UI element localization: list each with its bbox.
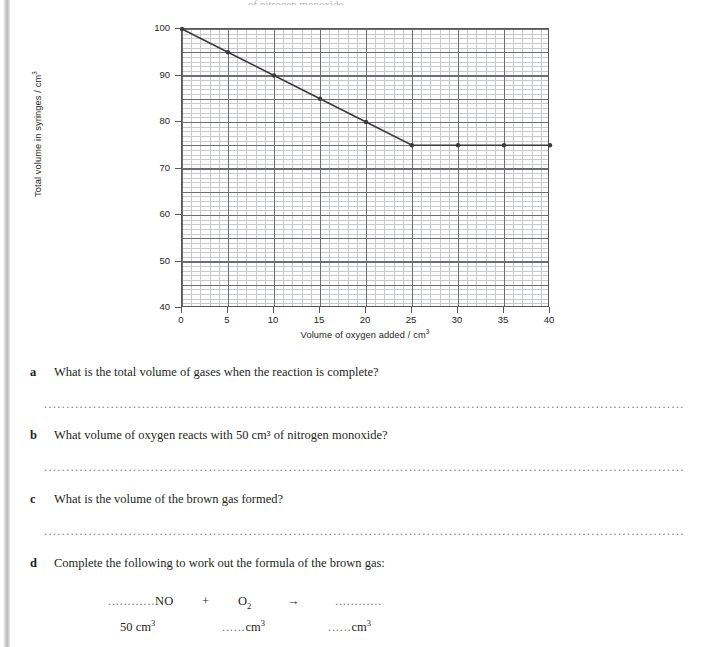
x-axis-tick-mark — [457, 307, 458, 313]
x-axis-tick-mark — [365, 307, 366, 313]
x-axis-tick-label: 10 — [258, 315, 288, 325]
graph-plot-area — [181, 28, 549, 307]
x-axis-tick-mark — [549, 307, 550, 313]
y-axis-tick-mark — [175, 261, 181, 262]
question-text: Complete the following to work out the f… — [54, 556, 385, 571]
y-axis-tick-label: 40 — [140, 302, 170, 312]
y-axis-label: Total volume in syringes / cm3 — [31, 39, 43, 229]
equation-reactant1-blank[interactable]: ............NO — [108, 594, 173, 609]
x-axis-tick-mark — [411, 307, 412, 313]
x-axis-tick-mark — [227, 307, 228, 313]
question-letter: a — [30, 365, 46, 380]
x-axis-tick-label: 40 — [534, 315, 564, 325]
equation-plus-sign: + — [202, 594, 209, 609]
x-axis-label: Volume of oxygen added / cm3 — [181, 328, 549, 340]
data-polyline — [182, 29, 550, 145]
answer-line[interactable]: ........................................… — [44, 399, 683, 409]
question-text: What volume of oxygen reacts with 50 cm³… — [54, 428, 388, 443]
y-axis-tick-mark — [175, 168, 181, 169]
x-axis-label-superscript: 3 — [426, 328, 430, 335]
answer-line[interactable]: ........................................… — [44, 462, 683, 472]
x-axis-tick-label: 35 — [488, 315, 518, 325]
x-axis-tick-mark — [319, 307, 320, 313]
x-axis-label-text: Volume of oxygen added / cm — [301, 330, 426, 340]
equation-reactant2: O2 — [238, 594, 251, 611]
equation-volume1: 50 cm3 — [120, 618, 155, 635]
x-axis-tick-label: 25 — [396, 315, 426, 325]
y-axis-label-superscript: 3 — [31, 71, 38, 75]
y-axis-tick-label: 50 — [140, 256, 170, 266]
equation-volume3-blank[interactable]: ......cm3 — [328, 618, 371, 635]
x-axis-tick-label: 20 — [350, 315, 380, 325]
y-axis-tick-label: 90 — [140, 70, 170, 80]
formula-working-area: ............NO + O2 → ............ 50 cm… — [0, 585, 707, 645]
data-point-marker — [318, 97, 322, 101]
graph-data-line — [182, 29, 550, 308]
y-axis-tick-mark — [175, 75, 181, 76]
question-text: What is the total volume of gases when t… — [54, 365, 379, 380]
question-letter: d — [30, 556, 46, 571]
data-point-marker — [364, 120, 368, 124]
y-axis-tick-label: 100 — [140, 23, 170, 33]
x-axis-tick-label: 30 — [442, 315, 472, 325]
equation-arrow: → — [287, 594, 300, 609]
equation-product-blank[interactable]: ............ — [335, 594, 382, 609]
x-axis-tick-label: 5 — [212, 315, 242, 325]
y-axis-tick-mark — [175, 214, 181, 215]
graph-figure: Total volume in syringes / cm3 Volume of… — [0, 0, 707, 350]
data-point-marker — [272, 73, 276, 77]
answer-line[interactable]: ........................................… — [44, 526, 683, 536]
y-axis-tick-mark — [175, 121, 181, 122]
question-letter: c — [30, 492, 46, 507]
x-axis-tick-label: 15 — [304, 315, 334, 325]
y-axis-label-text: Total volume in syringes / cm — [33, 75, 43, 197]
data-point-marker — [410, 143, 414, 147]
data-point-marker — [548, 143, 552, 147]
data-point-marker — [456, 143, 460, 147]
data-point-marker — [502, 143, 506, 147]
x-axis-tick-mark — [503, 307, 504, 313]
question-letter: b — [30, 428, 46, 443]
question-text: What is the volume of the brown gas form… — [54, 492, 283, 507]
y-axis-tick-label: 80 — [140, 116, 170, 126]
x-axis-tick-label: 0 — [166, 315, 196, 325]
equation-volume2-blank[interactable]: ......cm3 — [222, 618, 265, 635]
x-axis-tick-mark — [273, 307, 274, 313]
y-axis-tick-label: 60 — [140, 209, 170, 219]
x-axis-tick-mark — [181, 307, 182, 313]
data-point-marker — [226, 50, 230, 54]
y-axis-tick-mark — [175, 28, 181, 29]
y-axis-tick-label: 70 — [140, 163, 170, 173]
